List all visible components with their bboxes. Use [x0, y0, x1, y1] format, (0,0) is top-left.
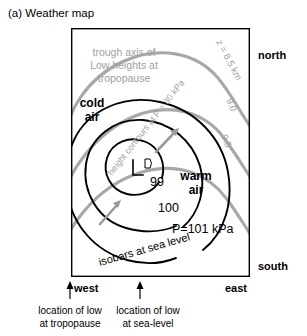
trough-axis-label-line-2: Low heights at	[90, 59, 158, 71]
compass-north: north	[258, 49, 286, 61]
isobar-label-100: 100	[158, 201, 179, 215]
callout-sealevel-line-2: at sea-level	[122, 318, 173, 329]
compass-south: south	[258, 260, 288, 272]
trough-axis-label-line-3: tropopause	[98, 72, 151, 84]
panel-label: (a) Weather map	[8, 7, 94, 19]
compass-east: east	[225, 282, 247, 294]
cold-air-line-1: cold	[80, 96, 105, 110]
warm-air-line-2: air	[189, 183, 204, 197]
weather-map-figure: (a) Weather map he	[0, 0, 307, 336]
cold-air-line-2: air	[85, 110, 100, 124]
callout-tropopause-line-2: at tropopause	[39, 318, 101, 329]
isobar-label-99: 99	[150, 175, 164, 189]
trough-axis-label: trough axis of Low heights at tropopause	[90, 46, 158, 84]
trough-axis-label-line-1: trough axis of	[92, 46, 155, 58]
callout-sealevel-line-1: location of low	[116, 305, 180, 316]
warm-air-line-1: warm	[179, 169, 211, 183]
callout-tropopause-line-1: location of low	[38, 305, 102, 316]
compass-west: west	[73, 282, 99, 294]
